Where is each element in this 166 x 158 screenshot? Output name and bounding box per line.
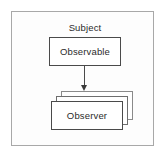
observer-class-box-front: Observer [51,101,123,130]
observer-stack: Observer [0,0,166,158]
observer-label: Observer [52,102,122,129]
observer-pattern-diagram: Subject Observable Observer [0,0,166,158]
